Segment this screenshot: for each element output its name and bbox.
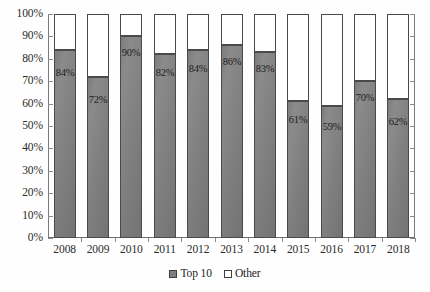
- bar-value-label: 72%: [88, 95, 108, 106]
- y-axis-tick-mark: [410, 104, 415, 105]
- x-axis-tick-mark: [248, 238, 249, 242]
- legend-item-other[interactable]: Other: [224, 268, 261, 280]
- bar-value-label: 83%: [255, 64, 275, 75]
- y-axis-tick-mark: [48, 148, 53, 149]
- y-axis-tick-label: 30%: [0, 165, 43, 177]
- bar-value-label: 84%: [55, 68, 75, 79]
- y-axis-tick-mark: [410, 59, 415, 60]
- bar-column[interactable]: 62%: [387, 14, 409, 238]
- y-axis-tick-mark: [410, 126, 415, 127]
- legend-swatch-top10-icon: [169, 270, 177, 278]
- bar-segment-other[interactable]: [87, 14, 109, 77]
- bar-column[interactable]: 83%: [254, 14, 276, 238]
- bar-value-label: 84%: [188, 64, 208, 75]
- y-axis-tick-label: 90%: [0, 30, 43, 42]
- bar-segment-top10[interactable]: [254, 52, 276, 238]
- y-axis-tick-label: 40%: [0, 142, 43, 154]
- x-axis-tick-label: 2018: [378, 244, 418, 256]
- y-axis-tick-label: 70%: [0, 75, 43, 87]
- bar-segment-other[interactable]: [287, 14, 309, 101]
- x-axis-tick-mark: [148, 238, 149, 242]
- bar-segment-top10[interactable]: [354, 81, 376, 238]
- y-axis-tick-label: 80%: [0, 53, 43, 65]
- chart-legend: Top 10 Other: [0, 268, 430, 280]
- legend-item-top10[interactable]: Top 10: [169, 268, 212, 280]
- bar-column[interactable]: 90%: [120, 14, 142, 238]
- bar-column[interactable]: 70%: [354, 14, 376, 238]
- bar-segment-top10[interactable]: [154, 54, 176, 238]
- bar-segment-other[interactable]: [354, 14, 376, 81]
- bar-segment-top10[interactable]: [221, 45, 243, 238]
- bar-value-label: 90%: [121, 48, 141, 59]
- bar-segment-top10[interactable]: [120, 36, 142, 238]
- y-axis-tick-label: 10%: [0, 210, 43, 222]
- y-axis-tick-mark: [410, 171, 415, 172]
- bar-segment-other[interactable]: [187, 14, 209, 50]
- bar-column[interactable]: 82%: [154, 14, 176, 238]
- y-axis-tick-mark: [48, 36, 53, 37]
- y-axis-tick-label: 50%: [0, 120, 43, 132]
- y-axis-tick-mark: [48, 171, 53, 172]
- bar-value-label: 62%: [388, 117, 408, 128]
- bar-segment-other[interactable]: [221, 14, 243, 45]
- bar-segment-other[interactable]: [120, 14, 142, 36]
- y-axis-tick-mark: [410, 148, 415, 149]
- y-axis-tick-mark: [48, 216, 53, 217]
- bar-column[interactable]: 84%: [54, 14, 76, 238]
- y-axis-tick-mark: [410, 81, 415, 82]
- y-axis-tick-mark: [48, 104, 53, 105]
- stacked-column-chart: 100%90%80%70%60%50%40%30%20%10%0% 84%72%…: [0, 0, 430, 292]
- y-axis-tick-mark: [410, 14, 415, 15]
- bar-segment-other[interactable]: [154, 14, 176, 54]
- x-axis-tick-mark: [348, 238, 349, 242]
- bar-segment-top10[interactable]: [187, 50, 209, 238]
- y-axis: 100%90%80%70%60%50%40%30%20%10%0%: [0, 0, 43, 292]
- x-axis-tick-mark: [115, 238, 116, 242]
- y-axis-tick-mark: [48, 59, 53, 60]
- legend-label-other: Other: [235, 268, 261, 280]
- y-axis-tick-mark: [410, 193, 415, 194]
- bar-value-label: 61%: [288, 115, 308, 126]
- bar-value-label: 82%: [155, 68, 175, 79]
- y-axis-tick-label: 0%: [0, 232, 43, 244]
- y-axis-tick-mark: [48, 238, 53, 239]
- bar-value-label: 70%: [355, 93, 375, 104]
- y-axis-tick-label: 20%: [0, 187, 43, 199]
- bar-column[interactable]: 59%: [321, 14, 343, 238]
- bar-segment-other[interactable]: [254, 14, 276, 52]
- y-axis-tick-mark: [410, 216, 415, 217]
- x-axis-tick-mark: [315, 238, 316, 242]
- y-axis-tick-label: 100%: [0, 8, 43, 20]
- y-axis-tick-mark: [48, 14, 53, 15]
- x-axis-tick-mark: [81, 238, 82, 242]
- bar-value-label: 86%: [222, 57, 242, 68]
- bar-segment-other[interactable]: [387, 14, 409, 99]
- x-axis-tick-mark: [181, 238, 182, 242]
- x-axis-tick-mark: [282, 238, 283, 242]
- bar-segment-other[interactable]: [321, 14, 343, 106]
- bar-column[interactable]: 72%: [87, 14, 109, 238]
- x-axis-tick-mark: [215, 238, 216, 242]
- y-axis-tick-mark: [48, 126, 53, 127]
- y-axis-tick-mark: [410, 36, 415, 37]
- bar-column[interactable]: 61%: [287, 14, 309, 238]
- bar-column[interactable]: 84%: [187, 14, 209, 238]
- y-axis-tick-label: 60%: [0, 98, 43, 110]
- x-axis-tick-mark: [382, 238, 383, 242]
- legend-swatch-other-icon: [224, 270, 232, 278]
- x-axis-tick-mark: [415, 238, 416, 242]
- bar-value-label: 59%: [322, 122, 342, 133]
- bar-column[interactable]: 86%: [221, 14, 243, 238]
- y-axis-tick-mark: [48, 193, 53, 194]
- legend-label-top10: Top 10: [180, 268, 212, 280]
- bar-segment-other[interactable]: [54, 14, 76, 50]
- y-axis-tick-mark: [48, 81, 53, 82]
